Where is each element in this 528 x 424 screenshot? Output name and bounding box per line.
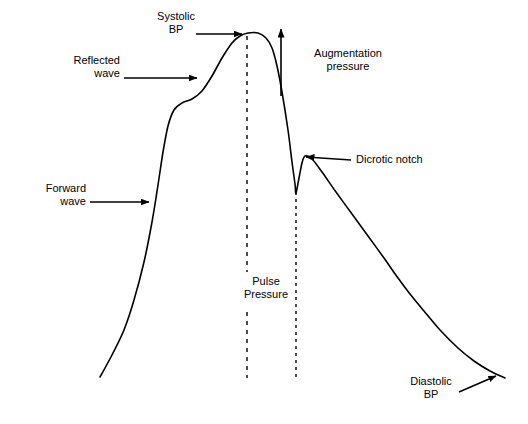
reflected-wave-label: Reflected wave <box>44 54 120 80</box>
dicrotic-notch-label: Dicrotic notch <box>356 153 466 166</box>
augmentation-pressure-label: Augmentation pressure <box>300 47 396 73</box>
diastolic-bp-arrow-icon <box>459 376 496 392</box>
forward-wave-label: Forward wave <box>10 182 86 208</box>
arterial-pressure-waveform-figure: Systolic BP Reflected wave Forward wave … <box>0 0 528 424</box>
diastolic-bp-label: Diastolic BP <box>398 375 464 401</box>
systolic-bp-label: Systolic BP <box>140 10 212 36</box>
pressure-waveform-curve <box>100 33 505 378</box>
pulse-pressure-label: Pulse Pressure <box>226 275 306 301</box>
